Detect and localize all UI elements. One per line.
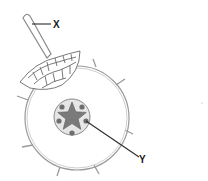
stray-dot: [201, 102, 203, 104]
label-y: Y: [139, 155, 146, 165]
y-pointer-line: [86, 121, 139, 157]
stele: [54, 99, 90, 136]
label-x: X: [53, 20, 60, 30]
root-hair: [23, 14, 51, 58]
root-cross-section-diagram: [0, 0, 208, 181]
epidermis-cells: [20, 51, 80, 89]
